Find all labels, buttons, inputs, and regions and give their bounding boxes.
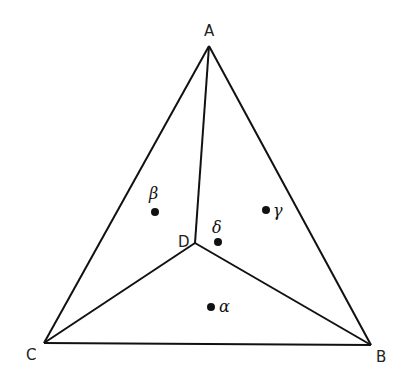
triangle-diagram: βγδα ABCD [0, 0, 410, 384]
edge-ca [44, 46, 209, 343]
vertex-label-a: A [204, 22, 215, 40]
point-label-beta: β [148, 184, 158, 203]
point-gamma [262, 206, 270, 214]
edges [44, 46, 371, 345]
point-delta [214, 238, 222, 246]
edge-bd [195, 243, 371, 345]
point-label-gamma: γ [273, 201, 283, 220]
point-beta [151, 208, 159, 216]
points: βγδα [148, 184, 283, 316]
vertex-label-c: C [26, 346, 36, 364]
edge-cd [44, 243, 195, 343]
vertex-label-b: B [376, 348, 386, 366]
edge-bc [44, 343, 371, 345]
edge-ab [209, 46, 371, 345]
point-alpha [207, 303, 215, 311]
point-label-alpha: α [219, 297, 230, 316]
edge-ad [195, 46, 209, 243]
point-label-delta: δ [212, 218, 222, 237]
vertex-label-d: D [178, 233, 190, 251]
